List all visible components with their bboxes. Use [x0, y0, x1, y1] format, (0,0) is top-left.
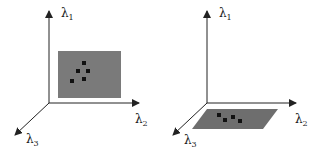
panel-right: λ1 λ2 λ3 [155, 0, 313, 156]
axis-label-lambda1: λ1 [219, 7, 232, 22]
axes-diagram-right [155, 0, 315, 156]
axis-lambda3 [15, 103, 49, 135]
axis-label-lambda3: λ3 [26, 133, 39, 148]
axes-diagram-left [0, 0, 158, 156]
figure: λ1 λ2 λ3 λ1 λ2 λ3 [0, 0, 315, 156]
axis-label-lambda2: λ2 [135, 113, 148, 128]
plane-lambda1-lambda2 [58, 51, 121, 98]
panel-left: λ1 λ2 λ3 [0, 0, 158, 156]
axis-label-lambda2: λ2 [295, 113, 308, 128]
axis-label-lambda1: λ1 [61, 7, 74, 22]
axis-label-lambda3: λ3 [184, 134, 197, 149]
